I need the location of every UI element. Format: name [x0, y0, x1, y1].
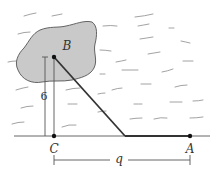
- label-C: C: [49, 142, 58, 156]
- horizontal-dimension-label: q: [115, 152, 123, 166]
- island: [16, 21, 96, 82]
- point-C: [52, 134, 56, 138]
- vertical-dimension-label: 6: [41, 90, 48, 103]
- label-A: A: [185, 142, 195, 156]
- point-B: [52, 55, 56, 59]
- label-B: B: [62, 39, 72, 53]
- point-A: [188, 134, 192, 138]
- island-shore-diagram: 6 B C A q: [0, 0, 217, 174]
